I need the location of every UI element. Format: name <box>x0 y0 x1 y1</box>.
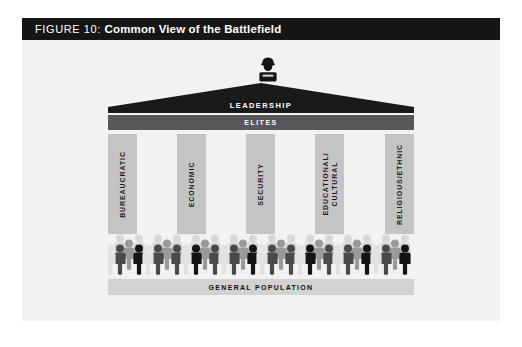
figure-title-text: Common View of the Battlefield <box>105 23 282 35</box>
elites-band: ELITES <box>108 115 414 130</box>
figure-number-label: FIGURE 10: <box>35 23 105 35</box>
column-educational-cultural: EDUCATIONAL/ CULTURAL <box>315 134 344 234</box>
column-label: BUREAUCRATIC <box>118 151 127 218</box>
general-population-label: GENERAL POPULATION <box>209 284 314 291</box>
column-label: EDUCATIONAL/ CULTURAL <box>321 152 339 215</box>
column-economic: ECONOMIC <box>177 134 206 234</box>
column-label: ECONOMIC <box>187 161 196 207</box>
officer-figure-icon <box>255 54 281 86</box>
figure-diagram: FIGURE 10: Common View of the Battlefiel… <box>0 0 522 347</box>
columns-group: BUREAUCRATIC ECONOMIC SECURITY EDUCATION… <box>108 134 414 234</box>
column-bureaucratic: BUREAUCRATIC <box>108 134 137 234</box>
column-security: SECURITY <box>246 134 275 234</box>
temple-illustration: LEADERSHIP ELITES BUREAUCRATIC ECONOMIC … <box>22 40 500 321</box>
crowd-people-group <box>108 232 414 278</box>
elites-label: ELITES <box>244 119 278 126</box>
column-label: SECURITY <box>256 163 265 206</box>
column-religious-ethnic: RELIGIOUS/ETHNIC <box>385 134 414 234</box>
general-population-band: GENERAL POPULATION <box>108 279 414 295</box>
figure-title-bar: FIGURE 10: Common View of the Battlefiel… <box>22 18 500 40</box>
column-label: RELIGIOUS/ETHNIC <box>395 144 404 225</box>
roof-pediment: LEADERSHIP <box>108 83 414 113</box>
